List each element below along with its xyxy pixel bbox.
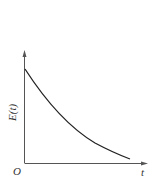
- x-axis: [25, 162, 149, 166]
- decay-curve: [25, 69, 130, 159]
- y-axis-arrow-icon: [23, 50, 27, 57]
- x-axis-arrow-icon: [141, 162, 148, 166]
- diagram-canvas: E(t) t O: [0, 0, 161, 183]
- y-axis-label: E(t): [6, 104, 19, 122]
- y-axis: [23, 50, 27, 163]
- origin-label: O: [13, 165, 21, 177]
- x-axis-label: t: [141, 166, 145, 178]
